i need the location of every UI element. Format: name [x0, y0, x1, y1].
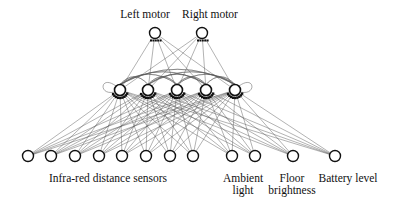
edge-input-hidden — [183, 93, 330, 154]
input-neuron-ir8 — [188, 151, 199, 162]
arrowhead-marker — [149, 96, 151, 98]
edge-input-hidden — [211, 94, 288, 153]
arrowhead-marker — [207, 40, 209, 42]
arrowhead-marker — [150, 40, 152, 42]
input-neuron-amb1 — [227, 151, 238, 162]
arrowhead-marker — [155, 40, 157, 42]
input-neuron-ir6 — [141, 151, 152, 162]
arrowhead-marker — [160, 40, 162, 42]
edge-input-hidden — [126, 93, 250, 154]
arrowhead-marker — [205, 97, 207, 99]
hidden-neuron — [172, 85, 183, 96]
edge-recurrent — [177, 74, 235, 84]
arrowhead-marker — [198, 93, 200, 95]
output-neuron — [197, 28, 208, 39]
arrowhead-marker — [121, 96, 123, 98]
arrowhead-marker — [147, 97, 149, 99]
edge-input-hidden — [104, 93, 229, 154]
floor-label: Floorbrightness — [268, 172, 315, 196]
edge-input-hidden — [78, 95, 116, 151]
edge-input-hidden — [146, 96, 148, 150]
input-neuron-ir5 — [117, 151, 128, 162]
input-neuron-amb2 — [250, 151, 261, 162]
edge-input-hidden — [183, 93, 289, 153]
edge-input-hidden — [240, 94, 330, 153]
edge-recurrent — [120, 72, 206, 85]
edge-hidden-output — [152, 38, 198, 86]
arrowhead-marker — [112, 93, 114, 95]
hidden-neuron — [201, 85, 212, 96]
output-neuron — [150, 28, 161, 39]
arrowhead-marker — [197, 40, 199, 42]
edge-hidden-output — [202, 39, 205, 84]
input-neuron-ir7 — [165, 151, 176, 162]
arrowhead-marker — [204, 40, 206, 42]
arrowhead-marker — [234, 97, 236, 99]
edge-input-hidden — [154, 93, 288, 154]
battery-label: Battery level — [318, 172, 377, 184]
hidden-neuron — [115, 85, 126, 96]
right-motor-label: Right motor — [182, 8, 238, 20]
edge-input-hidden — [56, 92, 229, 154]
edge-recurrent — [148, 77, 177, 85]
edge-input-hidden — [239, 95, 289, 152]
arrowhead-marker — [236, 96, 238, 98]
ir-label: Infra-red distance sensors — [49, 172, 167, 184]
left-motor-label: Left motor — [120, 8, 170, 20]
input-neuron-ir3 — [70, 151, 81, 162]
edge-input-hidden — [148, 96, 174, 151]
arrowhead-marker — [152, 40, 154, 42]
arrowhead-marker — [140, 93, 142, 95]
edge-recurrent — [148, 74, 206, 84]
input-neuron-battery — [330, 151, 341, 162]
edge-hidden-output — [149, 39, 155, 84]
edge-hidden-output — [179, 39, 199, 85]
input-neuron-floor — [288, 151, 299, 162]
arrowhead-marker — [119, 97, 121, 99]
arrowhead-marker — [169, 93, 171, 95]
arrowhead-marker — [207, 96, 209, 98]
edge-input-hidden — [212, 93, 330, 154]
arrowhead-marker — [199, 40, 201, 42]
edge-recurrent — [177, 77, 206, 85]
input-neuron-ir1 — [23, 151, 34, 162]
edge-hidden-output — [123, 39, 152, 86]
neural-network-diagram: Left motorRight motorInfra-red distance … — [0, 0, 408, 206]
input-neuron-ir2 — [46, 151, 57, 162]
input-neuron-ir4 — [94, 151, 105, 162]
arrowhead-marker — [176, 97, 178, 99]
ambient-label: Ambientlight — [223, 172, 263, 196]
arrowhead-marker — [157, 40, 159, 42]
edge-input-hidden — [152, 95, 190, 151]
hidden-neuron — [230, 85, 241, 96]
arrowhead-marker — [227, 93, 229, 95]
hidden-neuron — [143, 85, 154, 96]
arrowhead-marker — [178, 96, 180, 98]
arrowhead-marker — [202, 40, 204, 42]
